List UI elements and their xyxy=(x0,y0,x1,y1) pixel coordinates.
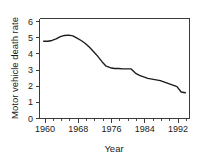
data-series-group xyxy=(44,35,186,93)
x-axis-tick-labels: 1960 1968 1976 1984 1992 xyxy=(35,124,188,134)
y-axis-ticks xyxy=(36,22,40,119)
y-tick-label-0: 0 xyxy=(28,114,33,124)
x-tick-label-1976: 1976 xyxy=(101,124,121,134)
x-axis-title: Year xyxy=(104,143,123,154)
data-line-motor-vehicle-death-rate xyxy=(44,35,186,93)
y-tick-label-3: 3 xyxy=(28,65,33,75)
x-tick-label-1984: 1984 xyxy=(135,124,155,134)
x-tick-label-1968: 1968 xyxy=(68,124,88,134)
y-tick-label-2: 2 xyxy=(28,81,33,91)
chart-figure: 0 1 2 3 4 5 6 xyxy=(0,0,206,162)
y-tick-label-5: 5 xyxy=(28,33,33,43)
x-axis-major-ticks xyxy=(45,119,178,123)
y-tick-label-6: 6 xyxy=(28,17,33,27)
y-tick-label-4: 4 xyxy=(28,49,33,59)
motor-vehicle-death-rate-line-chart: 0 1 2 3 4 5 6 xyxy=(0,0,206,162)
y-axis-tick-labels: 0 1 2 3 4 5 6 xyxy=(28,17,33,124)
x-tick-label-1960: 1960 xyxy=(35,124,55,134)
y-axis-title: Motor vehicle death rate xyxy=(9,17,20,119)
x-tick-label-1992: 1992 xyxy=(168,124,188,134)
y-tick-label-1: 1 xyxy=(28,97,33,107)
